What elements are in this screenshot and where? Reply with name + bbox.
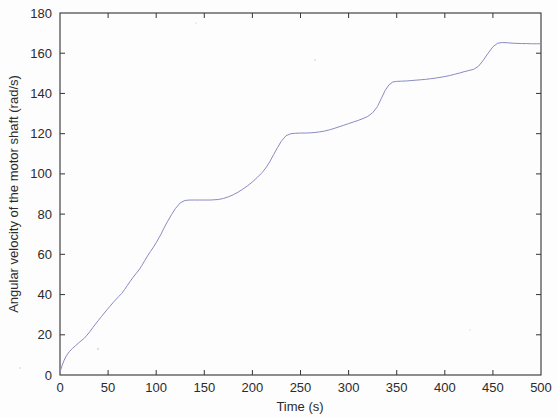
- x-tick-label: 100: [145, 380, 167, 395]
- y-tick-label: 40: [38, 287, 52, 302]
- y-tick-label: 80: [38, 207, 52, 222]
- x-tick-label: 0: [56, 380, 63, 395]
- line-chart-svg: 050100150200250300350400450500 020406080…: [0, 0, 558, 417]
- x-tick-label: 150: [193, 380, 215, 395]
- x-tick-label: 200: [242, 380, 264, 395]
- x-tick-label: 350: [386, 380, 408, 395]
- y-tick-label: 0: [45, 368, 52, 383]
- x-tick-label: 50: [101, 380, 115, 395]
- figure-background: [0, 0, 558, 417]
- chart-figure: 050100150200250300350400450500 020406080…: [0, 0, 558, 417]
- y-axis-label: Angular velocity of the motor shaft (rad…: [6, 75, 21, 313]
- x-axis-label: Time (s): [276, 399, 323, 414]
- y-tick-label: 20: [38, 327, 52, 342]
- y-tick-label: 100: [30, 166, 52, 181]
- x-tick-label: 300: [338, 380, 360, 395]
- y-tick-label: 160: [30, 46, 52, 61]
- y-tick-label: 140: [30, 86, 52, 101]
- y-tick-label: 180: [30, 6, 52, 21]
- y-tick-label: 60: [38, 247, 52, 262]
- x-tick-label: 450: [482, 380, 504, 395]
- x-tick-label: 400: [434, 380, 456, 395]
- y-tick-label: 120: [30, 126, 52, 141]
- x-tick-label: 500: [530, 380, 552, 395]
- x-tick-label: 250: [290, 380, 312, 395]
